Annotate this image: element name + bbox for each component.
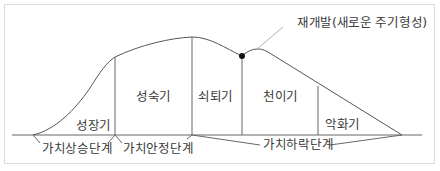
stage-decline-label: 쇠퇴기 [198,91,233,104]
bracket-value-rise-left [33,135,40,143]
stage-growth-label: 성장기 [76,120,111,133]
stage-transition-label: 천이기 [263,91,298,104]
redevelopment-point [239,53,245,59]
bracket-value-stable-left [115,135,122,143]
stage-deterioration-label: 악화기 [325,119,360,132]
phase-value-stable-label: 가치안정단계 [123,143,193,156]
life-cycle-curve [33,37,242,135]
bracket-value-fall-right [330,135,402,145]
bracket-value-stable-right [187,135,192,139]
annotation-redevelopment: 재개발(새로운 주기형성) [297,17,427,30]
phase-value-rise-label: 가치상승단계 [42,143,112,156]
stage-maturity-label: 성숙기 [136,91,171,104]
annotation-leader-line [257,27,283,49]
bracket-value-fall-left [192,135,260,145]
phase-value-fall-label: 가치하락단계 [263,139,333,152]
